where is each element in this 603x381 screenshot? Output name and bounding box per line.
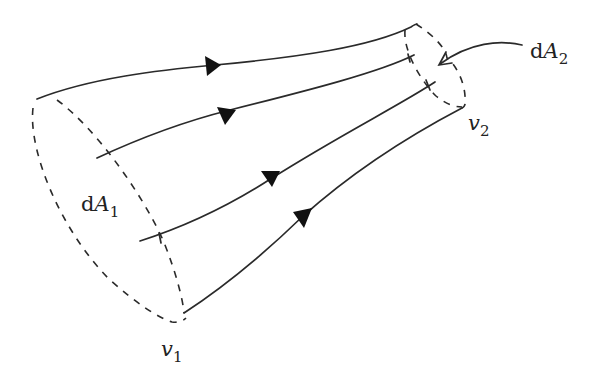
arrowhead-streamline-2 [217,107,236,125]
label-dA1: dA1 [81,192,119,221]
arrowhead-streamline-3 [261,171,280,187]
pointer-head [439,52,452,65]
outlet-front-edge [416,24,465,108]
label-v1: v1 [161,337,182,366]
streamlines [37,24,462,313]
stream-tube-diagram: dA2 v2 dA1 v1 [0,0,603,381]
inlet-inner-edge [57,100,184,313]
arrowhead-streamline-4 [293,208,312,228]
dA2-pointer [439,43,522,65]
arrowhead-streamline-1 [205,56,221,76]
streamline-2 [97,55,414,158]
streamline-3 [140,82,435,241]
arrowheads [205,56,312,228]
tick-streamline-2-outlet [408,54,410,62]
streamline-1 [37,24,417,99]
label-v2: v2 [468,111,489,140]
label-dA2: dA2 [530,39,568,68]
streamline-4 [184,108,462,313]
pointer-curve [440,43,522,64]
